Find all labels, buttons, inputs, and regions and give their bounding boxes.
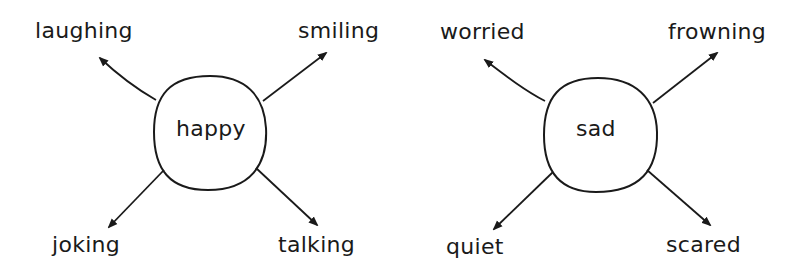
- arrow-to-worried: [485, 60, 545, 101]
- branch-label-smiling: smiling: [298, 18, 379, 43]
- center-node-sad: sad: [576, 116, 616, 141]
- branch-label-quiet: quiet: [446, 234, 504, 259]
- arrow-to-joking: [109, 170, 164, 227]
- arrow-to-smiling: [263, 53, 326, 101]
- arrow-to-talking: [256, 168, 317, 225]
- branch-label-worried: worried: [440, 19, 525, 44]
- branch-label-talking: talking: [278, 232, 355, 257]
- arrow-to-frowning: [653, 53, 717, 103]
- mind-map-canvas: happy laughing smiling joking talking sa…: [0, 0, 801, 279]
- arrow-to-laughing: [100, 58, 156, 100]
- center-node-happy: happy: [176, 116, 246, 141]
- arrow-to-scared: [647, 170, 710, 225]
- branch-label-laughing: laughing: [35, 18, 133, 43]
- branch-label-joking: joking: [52, 232, 120, 257]
- arrow-to-quiet: [494, 172, 553, 229]
- branch-label-frowning: frowning: [668, 19, 766, 44]
- branch-label-scared: scared: [666, 232, 741, 257]
- sad-diagram: [485, 53, 717, 229]
